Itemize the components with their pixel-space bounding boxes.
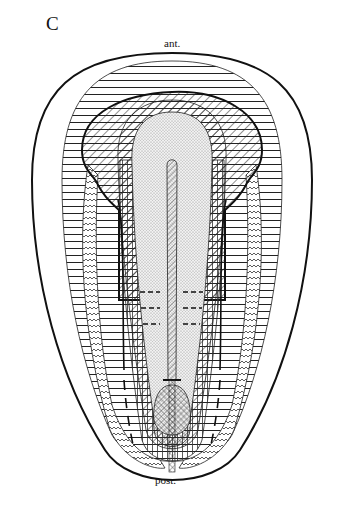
posterior-stalk	[169, 380, 175, 472]
embryo-diagram	[0, 0, 344, 515]
axial-rod	[167, 160, 177, 380]
